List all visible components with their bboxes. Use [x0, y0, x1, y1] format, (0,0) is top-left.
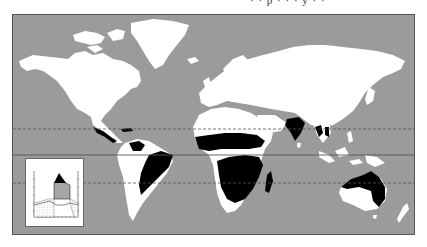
philippines — [347, 131, 353, 143]
climate-diagram-svg — [26, 159, 85, 228]
madagascar — [265, 171, 273, 193]
perhumid-peak — [54, 173, 66, 183]
humid-period — [54, 181, 70, 199]
iceland — [187, 57, 199, 64]
tasmania — [373, 215, 377, 219]
new-zealand — [397, 203, 409, 223]
caribbean-islands — [121, 128, 133, 132]
figure-caption-fragment: · · p · · · y · · — [250, 0, 326, 6]
arid-period-right — [70, 199, 78, 217]
climate-diagram-inset — [25, 158, 84, 227]
north-america — [19, 51, 141, 123]
arctic-islands — [73, 29, 125, 53]
sri-lanka — [297, 143, 301, 148]
greenland — [131, 19, 189, 69]
indonesia — [319, 147, 385, 167]
